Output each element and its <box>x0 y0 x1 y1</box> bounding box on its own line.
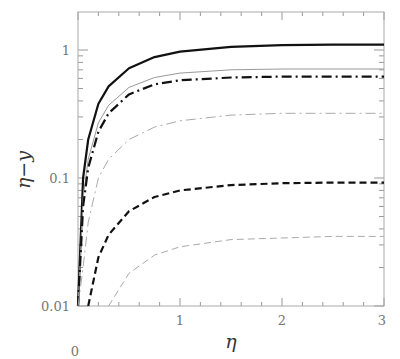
y-tick-1: 1 <box>62 43 70 58</box>
line-chart: 0 1 2 3 0.01 0.1 1 η η−y <box>0 0 400 359</box>
y-tick-0.1: 0.1 <box>49 171 70 186</box>
curve-3 <box>78 113 384 306</box>
x-tick-3: 3 <box>378 313 386 328</box>
x-tick-2: 2 <box>278 313 286 328</box>
plot-frame <box>78 12 384 306</box>
curve-2 <box>78 77 384 306</box>
y-tick-0.01: 0.01 <box>41 299 70 314</box>
x-tick-0: 0 <box>71 344 79 359</box>
curves <box>78 45 384 306</box>
curve-4 <box>88 183 384 306</box>
y-axis-label: η−y <box>12 151 34 189</box>
curve-0 <box>78 45 384 306</box>
x-tick-1: 1 <box>176 313 184 328</box>
x-axis-label: η <box>225 330 237 352</box>
curve-1 <box>78 69 384 306</box>
curve-5 <box>109 236 384 306</box>
